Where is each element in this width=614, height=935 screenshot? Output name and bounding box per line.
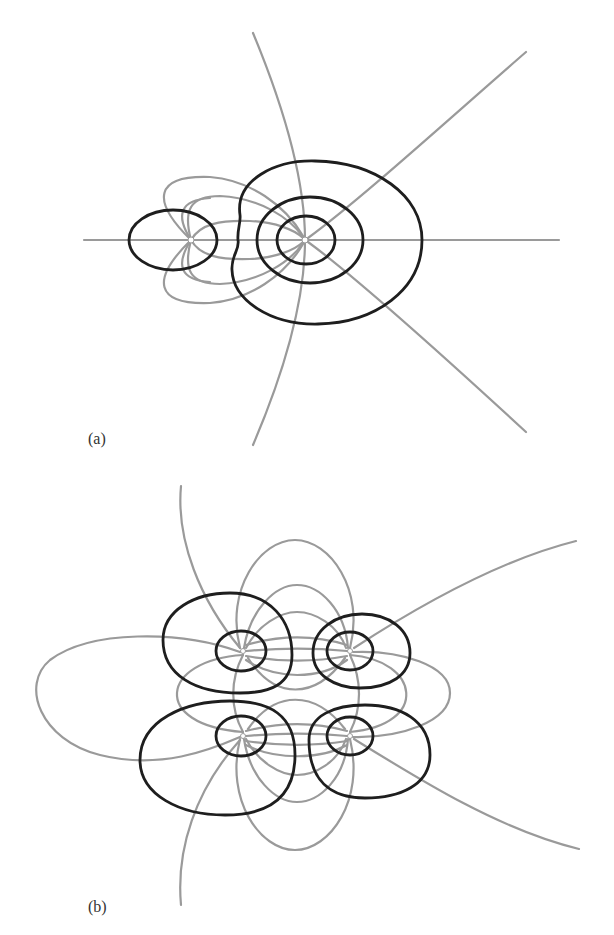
charge-top-left-dot [241,649,246,654]
figure-canvas [0,0,614,935]
panel-b-field-lines [36,486,579,905]
panel-a-diagram [84,33,559,445]
charge-top-right-dot [348,649,353,654]
small-charge-dot [188,237,194,243]
panel-b-diagram [36,486,579,905]
panel-a-field-lines [84,33,559,445]
large-charge-dot [302,237,308,243]
panel-b-label: (b) [88,898,107,916]
charge-bottom-right-dot [348,734,353,739]
charge-bottom-left-dot [241,734,246,739]
panel-a-label: (a) [88,430,106,448]
